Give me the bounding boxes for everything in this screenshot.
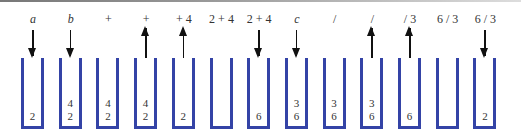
- stack-item: 6: [288, 110, 305, 122]
- pop-arrow-up-icon: [409, 28, 411, 58]
- stack-container: 6: [247, 58, 270, 129]
- step-6: 2 + 4: [203, 0, 241, 139]
- pop-arrow-up-icon: [145, 28, 147, 58]
- stack-container: 63: [285, 58, 308, 129]
- stack-container: 2: [473, 58, 496, 129]
- stack-container: [436, 58, 459, 129]
- stack-container: 24: [96, 58, 119, 129]
- stack-item: 2: [137, 110, 154, 122]
- step-label: / 3: [391, 12, 429, 27]
- push-arrow-down-icon: [296, 30, 298, 56]
- step-label: 6 / 3: [466, 12, 504, 27]
- step-3: +24: [89, 0, 127, 139]
- stack-container: 2: [21, 58, 44, 129]
- step-7: 2 + 46: [240, 0, 278, 139]
- stack-item: 3: [288, 97, 305, 109]
- stack-item: 2: [62, 110, 79, 122]
- stack-container: 63: [323, 58, 346, 129]
- stack-container: 63: [360, 58, 383, 129]
- stack-item: 2: [24, 110, 41, 122]
- stack-item: 4: [99, 97, 116, 109]
- step-label: 2 + 4: [203, 12, 241, 27]
- stack-item: 6: [363, 110, 380, 122]
- stack-container: 24: [134, 58, 157, 129]
- stack-item: 4: [137, 97, 154, 109]
- pop-arrow-up-icon: [183, 28, 185, 58]
- stack-container: 2: [172, 58, 195, 129]
- step-label: c: [278, 12, 316, 27]
- step-10: /63: [353, 0, 391, 139]
- step-label: 6 / 3: [429, 12, 467, 27]
- step-11: / 36: [391, 0, 429, 139]
- stack-item: 2: [175, 110, 192, 122]
- step-5: + 42: [165, 0, 203, 139]
- step-13: 6 / 32: [466, 0, 504, 139]
- step-1: a2: [14, 0, 52, 139]
- step-4: +24: [127, 0, 165, 139]
- stack-item: 2: [476, 110, 493, 122]
- step-9: /63: [316, 0, 354, 139]
- stack-container: 6: [398, 58, 421, 129]
- step-label: b: [52, 12, 90, 27]
- step-12: 6 / 3: [429, 0, 467, 139]
- stack-container: 24: [59, 58, 82, 129]
- stack-item: 4: [62, 97, 79, 109]
- pop-arrow-up-icon: [371, 28, 373, 58]
- step-label: 2 + 4: [240, 12, 278, 27]
- step-label: + 4: [165, 12, 203, 27]
- push-arrow-down-icon: [484, 30, 486, 56]
- step-label: /: [316, 12, 354, 27]
- stack-item: 6: [250, 110, 267, 122]
- push-arrow-down-icon: [32, 30, 34, 56]
- step-label: +: [89, 12, 127, 27]
- stack-item: 3: [363, 97, 380, 109]
- step-label: a: [14, 12, 52, 27]
- step-8: c63: [278, 0, 316, 139]
- push-arrow-down-icon: [258, 30, 260, 56]
- stack-container: [210, 58, 233, 129]
- stack-item: 2: [99, 110, 116, 122]
- step-label: /: [353, 12, 391, 27]
- step-label: +: [127, 12, 165, 27]
- stack-item: 6: [326, 110, 343, 122]
- stack-item: 3: [326, 97, 343, 109]
- stack-item: 6: [401, 110, 418, 122]
- push-arrow-down-icon: [70, 30, 72, 56]
- step-2: b24: [52, 0, 90, 139]
